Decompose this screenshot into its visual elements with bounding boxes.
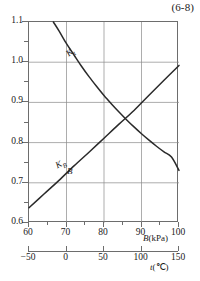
x-tick-label: 60 (13, 227, 43, 237)
t-tick-major (28, 246, 29, 251)
curve-kt (53, 22, 179, 170)
y-tick-minor (24, 162, 28, 163)
t-tick-major (141, 246, 142, 251)
y-tick-label: 0.9 (0, 95, 23, 105)
x-tick-minor (84, 222, 85, 225)
y-tick-label: 1.1 (0, 15, 23, 25)
plot-area: Kt KB B (28, 21, 178, 222)
y-tick-label: 0.7 (0, 176, 23, 186)
curve-label-b: B (67, 166, 73, 176)
t-tick-label: 0 (49, 252, 83, 262)
figure-root: (6-8) Kt KB B 0.60.70.80.91.01.1 6070809… (0, 0, 200, 281)
equation-tag: (6-8) (172, 1, 195, 13)
y-tick-minor (24, 122, 28, 123)
y-tick-label: 0.8 (0, 136, 23, 146)
x-tick-minor (159, 222, 160, 225)
x-axis-primary-caption: B(kPa) (143, 233, 168, 243)
y-tick-minor (24, 81, 28, 82)
x-axis-secondary-caption: t(℃) (150, 262, 169, 272)
plot-canvas (29, 22, 179, 223)
x-tick-minor (122, 222, 123, 225)
x-tick-minor (47, 222, 48, 225)
t-tick-major (66, 246, 67, 251)
x-tick-label: 80 (88, 227, 118, 237)
x-tick-label: 70 (51, 227, 81, 237)
y-tick-label: 1.0 (0, 55, 23, 65)
y-tick-minor (24, 202, 28, 203)
y-tick-label: 0.6 (0, 216, 23, 226)
t-tick-label: 150 (161, 252, 195, 262)
grid-lines (29, 22, 179, 223)
t-tick-label: 50 (86, 252, 120, 262)
y-tick-minor (24, 41, 28, 42)
t-tick-major (178, 246, 179, 251)
t-tick-label: −50 (11, 252, 45, 262)
t-tick-label: 100 (124, 252, 158, 262)
t-tick-major (103, 246, 104, 251)
